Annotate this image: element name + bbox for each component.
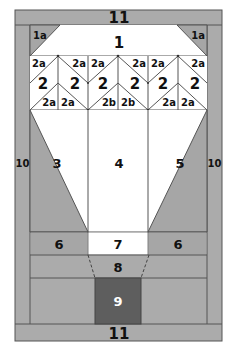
- label-piece-5: 5: [175, 156, 184, 171]
- label-2: 2: [190, 75, 200, 93]
- label-2: 2: [70, 75, 80, 93]
- label-2a: 2a: [42, 97, 56, 108]
- label-2a: 2a: [181, 97, 195, 108]
- label-2a: 2a: [151, 58, 165, 69]
- label-2a: 2a: [61, 97, 75, 108]
- label-piece-1: 1: [114, 34, 124, 52]
- label-piece-7: 7: [113, 237, 122, 252]
- label-2a: 2a: [91, 58, 105, 69]
- quilt-diagram: 11 11 10 10 1 1a 1a 2a 2a 2a 2a 2a 2a 2 …: [0, 0, 233, 351]
- label-bottom-border: 11: [109, 325, 130, 343]
- label-2a: 2a: [162, 97, 176, 108]
- label-left-side: 10: [16, 158, 30, 169]
- label-2: 2: [130, 75, 140, 93]
- label-2: 2: [98, 75, 108, 93]
- label-2a: 2a: [32, 58, 46, 69]
- label-2: 2: [158, 75, 168, 93]
- label-piece-9: 9: [113, 294, 122, 309]
- label-2a: 2a: [72, 58, 86, 69]
- label-1a-left: 1a: [33, 30, 47, 41]
- label-piece-6-left: 6: [54, 237, 63, 252]
- label-1a-right: 1a: [191, 30, 205, 41]
- label-2b: 2b: [102, 97, 116, 108]
- label-2: 2: [38, 75, 48, 93]
- label-2b: 2b: [121, 97, 135, 108]
- label-piece-8: 8: [113, 260, 122, 275]
- label-top-border: 11: [109, 9, 130, 27]
- label-piece-6-right: 6: [173, 237, 182, 252]
- label-right-side: 10: [208, 158, 222, 169]
- label-piece-4: 4: [114, 156, 123, 171]
- label-piece-3: 3: [52, 156, 61, 171]
- label-2a: 2a: [132, 58, 146, 69]
- label-2a: 2a: [191, 58, 205, 69]
